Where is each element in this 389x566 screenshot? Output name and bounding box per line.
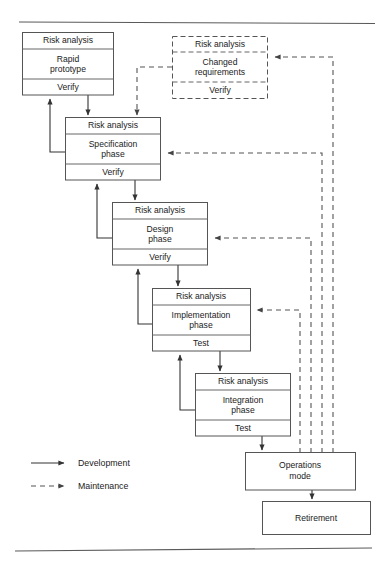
phase-box-design[interactable]: Risk analysis Design phase Verify [113, 203, 208, 266]
lifecycle-diagram: Risk analysis Rapid prototype Verify Ris… [0, 0, 389, 566]
integration-body-line2: phase [231, 405, 255, 415]
changed-requirements-body-line1: Changed [203, 57, 238, 67]
legend-label-development: Development [78, 458, 130, 468]
implementation-body-line1: Implementation [172, 310, 231, 320]
design-header: Risk analysis [135, 205, 185, 215]
development-feedback-specification-to-prototype [50, 99, 65, 152]
development-feedback-design-to-specification [97, 184, 112, 238]
integration-footer: Test [235, 423, 251, 433]
implementation-body-line2: phase [189, 320, 213, 330]
changed-requirements-body-line2: requirements [195, 67, 245, 77]
design-body-line1: Design [147, 224, 174, 234]
changed-requirements-header: Risk analysis [195, 39, 245, 49]
rapid-prototype-footer: Verify [57, 82, 79, 92]
operations-mode-line1: Operations [279, 460, 321, 470]
phase-box-implementation[interactable]: Risk analysis Implementation phase Test [153, 289, 251, 352]
design-body-line2: phase [148, 234, 172, 244]
integration-body-line1: Integration [223, 395, 264, 405]
integration-header: Risk analysis [218, 376, 268, 386]
specification-body-line1: Specification [89, 139, 138, 149]
legend-item-development: Development [31, 458, 130, 468]
specification-header: Risk analysis [88, 120, 138, 130]
top-rule [19, 22, 375, 24]
rapid-prototype-header: Risk analysis [43, 35, 93, 45]
specification-footer: Verify [102, 167, 124, 177]
implementation-header: Risk analysis [176, 291, 226, 301]
implementation-footer: Test [193, 338, 209, 348]
development-feedback-implementation-to-design [138, 269, 152, 324]
phase-box-retirement[interactable]: Retirement [263, 502, 371, 535]
bottom-rule [15, 548, 372, 551]
phase-box-specification[interactable]: Risk analysis Specification phase Verify [66, 118, 161, 181]
design-footer: Verify [149, 252, 171, 262]
rapid-prototype-body-line1: Rapid [57, 54, 80, 64]
specification-body-line2: phase [101, 149, 125, 159]
phase-box-changed-requirements[interactable]: Risk analysis Changed requirements Verif… [173, 37, 268, 99]
operations-mode-line2: mode [289, 471, 311, 481]
phase-box-operations-mode[interactable]: Operations mode [246, 453, 356, 491]
changed-requirements-footer: Verify [209, 85, 231, 95]
legend-item-maintenance: Maintenance [31, 481, 128, 491]
phase-box-rapid-prototype[interactable]: Risk analysis Rapid prototype Verify [23, 33, 114, 96]
legend: Development Maintenance [31, 458, 130, 491]
maintenance-line-changed-requirements-to-specification [137, 67, 172, 115]
retirement-label: Retirement [295, 513, 338, 523]
development-feedback-integration-to-implementation [180, 355, 195, 410]
diagram-figure: Risk analysis Rapid prototype Verify Ris… [0, 0, 389, 566]
phase-box-integration[interactable]: Risk analysis Integration phase Test [196, 374, 291, 437]
rapid-prototype-body-line2: prototype [50, 64, 86, 74]
legend-label-maintenance: Maintenance [78, 481, 128, 491]
